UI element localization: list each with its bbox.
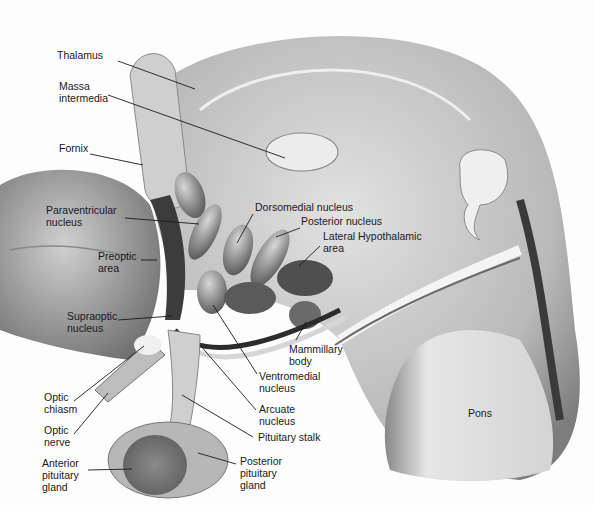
label-arcuate: Arcuate nucleus — [259, 403, 295, 427]
label-chiasm: Optic chiasm — [44, 391, 77, 415]
pituitary-stalk — [168, 330, 200, 425]
label-mammillary: Mammillary body — [289, 343, 343, 367]
label-thalamus: Thalamus — [57, 49, 103, 61]
label-nerve: Optic nerve — [44, 424, 70, 448]
label-anterior_gland: Anterior pituitary gland — [42, 457, 79, 493]
label-massa: Massa intermedia — [59, 80, 108, 104]
label-fornix: Fornix — [59, 142, 88, 154]
leader-ventromedial — [213, 305, 257, 374]
hypothalamus-diagram: ThalamusMassa intermediaFornixParaventri… — [0, 0, 594, 505]
label-posterior_gland: Posterior pituitary gland — [240, 455, 282, 491]
optic-chiasm — [134, 335, 162, 355]
anatomy-illustration — [0, 0, 594, 505]
label-ventromedial: Ventromedial nucleus — [259, 370, 320, 394]
label-dorsomedial: Dorsomedial nucleus — [255, 201, 353, 213]
label-paraventricular: Paraventricular nucleus — [46, 204, 117, 228]
anterior-pituitary — [123, 435, 187, 495]
label-stalk: Pituitary stalk — [258, 431, 320, 443]
label-supraoptic: Supraoptic nucleus — [67, 310, 117, 334]
label-posterior: Posterior nucleus — [301, 215, 382, 227]
label-pons: Pons — [468, 407, 492, 419]
massa-intermedia — [266, 133, 338, 171]
label-lateral: Lateral Hypothalamic area — [323, 230, 422, 254]
leader-fornix — [90, 154, 143, 165]
label-preoptic: Preoptic area — [98, 250, 137, 274]
leader-nerve — [74, 393, 108, 434]
